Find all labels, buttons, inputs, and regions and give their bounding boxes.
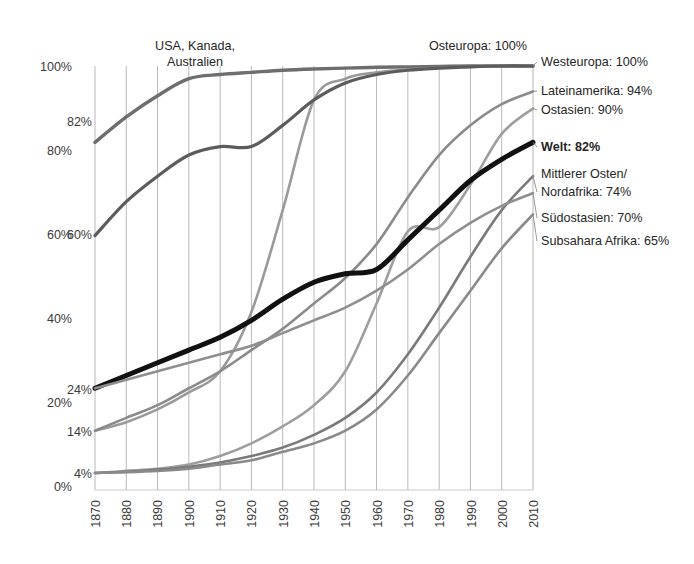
- legend-label-lateinamerika: Lateinamerika: 94%: [541, 84, 652, 98]
- literacy-line-chart: 100% 80% 60% 40% 20% 0% 82% 60% 24% 14% …: [0, 0, 694, 564]
- y-callout-82: 82%: [67, 115, 92, 129]
- legend-label-suedostasien: Südostasien: 70%: [541, 211, 643, 225]
- annotation-usa-line2: Australien: [167, 55, 223, 69]
- x-tick-1960: 1960: [371, 500, 385, 528]
- y-callout-60: 60%: [67, 228, 92, 242]
- leader-line-mittlerer-osten-nordafrika: [533, 176, 537, 192]
- legend-label-westeuropa: Westeuropa: 100%: [541, 55, 648, 69]
- leader-line-subsahara-afrika: [533, 214, 537, 241]
- x-tick-1880: 1880: [120, 500, 134, 528]
- legend-label-welt: Welt: 82%: [541, 140, 600, 154]
- chart-canvas: 100% 80% 60% 40% 20% 0% 82% 60% 24% 14% …: [0, 0, 694, 564]
- x-tick-1870: 1870: [89, 500, 103, 528]
- y-tick-40: 40%: [47, 312, 72, 326]
- annotation-usa-line1: USA, Kanada,: [155, 39, 235, 53]
- y-tick-20: 20%: [47, 396, 72, 410]
- x-tick-1890: 1890: [151, 500, 165, 528]
- legend-label-mittlerer-osten-line1: Mittlerer Osten/: [541, 167, 628, 181]
- y-tick-0: 0%: [54, 480, 72, 494]
- x-tick-1920: 1920: [245, 500, 259, 528]
- y-callout-14: 14%: [67, 425, 92, 439]
- y-callout-4: 4%: [74, 467, 92, 481]
- legend-label-subsahara: Subsahara Afrika: 65%: [541, 234, 669, 248]
- legend-label-ostasien: Ostasien: 90%: [541, 103, 623, 117]
- leader-line-westeuropa: [533, 62, 537, 66]
- x-tick-1910: 1910: [214, 500, 228, 528]
- x-tick-1990: 1990: [465, 500, 479, 528]
- y-tick-100: 100%: [40, 60, 72, 74]
- legend-label-mittlerer-osten-line2: Nordafrika: 74%: [541, 185, 631, 199]
- annotation-osteuropa: Osteuropa: 100%: [429, 39, 527, 53]
- x-tick-1930: 1930: [277, 500, 291, 528]
- y-tick-80: 80%: [47, 144, 72, 158]
- x-tick-1900: 1900: [183, 500, 197, 528]
- x-tick-1970: 1970: [402, 500, 416, 528]
- x-tick-1950: 1950: [339, 500, 353, 528]
- x-tick-2000: 2000: [496, 500, 510, 528]
- x-tick-1940: 1940: [308, 500, 322, 528]
- x-tick-1980: 1980: [433, 500, 447, 528]
- y-callout-24: 24%: [67, 383, 92, 397]
- x-tick-2010: 2010: [527, 500, 541, 528]
